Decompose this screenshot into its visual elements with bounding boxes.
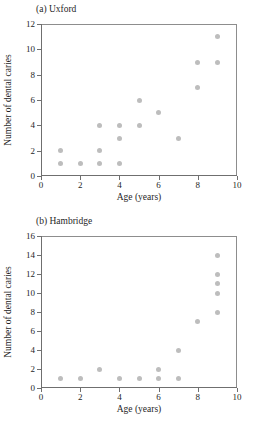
panel-b-y-tick-label: 12 xyxy=(26,270,35,279)
data-point xyxy=(176,348,181,353)
panel-b-y-tick-label: 14 xyxy=(26,251,35,260)
panel-a-y-tick-label: 2 xyxy=(31,146,36,155)
panel-b-y-tick-label: 10 xyxy=(26,289,35,298)
data-point xyxy=(156,110,161,115)
panel-a-x-tick-label: 4 xyxy=(117,181,122,190)
panel-b-y-tick-mark xyxy=(37,331,41,332)
panel-a-y-tick-mark xyxy=(37,151,41,152)
panel-a-y-tick-mark xyxy=(37,100,41,101)
panel-a-y-tick-label: 6 xyxy=(31,96,36,105)
panel-a-x-tick-label: 6 xyxy=(156,181,161,190)
data-point xyxy=(137,98,142,103)
panel-a-y-tick-label: 8 xyxy=(31,70,36,79)
panel-b-x-tick-label: 0 xyxy=(39,393,44,402)
panel-a-y-tick-mark xyxy=(37,49,41,50)
panel-a-axis-right xyxy=(236,24,237,176)
panel-b-y-tick-mark xyxy=(37,255,41,256)
data-point xyxy=(176,376,181,381)
data-point xyxy=(58,148,63,153)
panel-b-title: (b) Hambridge xyxy=(36,216,92,227)
panel-a-y-tick-label: 4 xyxy=(31,121,36,130)
figure-panel-b: (b) Hambridge Number of dental caries 02… xyxy=(0,212,264,425)
data-point xyxy=(58,161,63,166)
data-point xyxy=(215,291,220,296)
data-point xyxy=(137,123,142,128)
panel-b-y-axis-title: Number of dental caries xyxy=(2,236,14,388)
panel-a-x-tick-label: 10 xyxy=(233,181,242,190)
panel-b-axis-left xyxy=(41,236,42,388)
panel-a-y-tick-mark xyxy=(37,75,41,76)
data-point xyxy=(117,161,122,166)
data-point xyxy=(137,376,142,381)
data-point xyxy=(176,136,181,141)
data-point xyxy=(156,376,161,381)
panel-a-axis-bottom xyxy=(41,175,237,176)
panel-b-x-tick-label: 10 xyxy=(233,393,242,402)
panel-a-title: (a) Uxford xyxy=(36,4,76,15)
panel-a-axis-top xyxy=(41,24,237,25)
panel-a-y-tick-label: 0 xyxy=(31,172,36,181)
data-point xyxy=(97,148,102,153)
data-point xyxy=(195,85,200,90)
data-point xyxy=(195,319,200,324)
panel-b-y-axis-title-text: Number of dental caries xyxy=(3,266,13,358)
panel-b-y-tick-label: 8 xyxy=(31,308,36,317)
panel-b-axis-bottom xyxy=(41,387,237,388)
panel-a-x-tick-label: 0 xyxy=(39,181,44,190)
data-point xyxy=(195,60,200,65)
panel-b-x-tick-label: 2 xyxy=(78,393,83,402)
data-point xyxy=(215,253,220,258)
panel-b-x-tick-label: 4 xyxy=(117,393,122,402)
panel-a-axis-left xyxy=(41,24,42,176)
panel-b-y-tick-label: 2 xyxy=(31,365,36,374)
panel-b-x-axis-title: Age (years) xyxy=(41,404,237,415)
data-point xyxy=(78,161,83,166)
panel-b-x-tick-label: 6 xyxy=(156,393,161,402)
data-point xyxy=(97,161,102,166)
panel-a-x-tick-label: 8 xyxy=(196,181,201,190)
panel-a-y-tick-label: 12 xyxy=(26,20,35,29)
panel-a-y-tick-mark xyxy=(37,125,41,126)
panel-b-y-tick-mark xyxy=(37,312,41,313)
panel-a-y-axis-title: Number of dental caries xyxy=(2,24,14,176)
panel-a-x-tick-label: 2 xyxy=(78,181,83,190)
panel-b-plot-area: 02468101214160246810 xyxy=(41,236,237,388)
data-point xyxy=(117,136,122,141)
data-point xyxy=(215,281,220,286)
data-point xyxy=(97,123,102,128)
panel-a-plot-area: 0246810120246810 xyxy=(41,24,237,176)
panel-b-y-tick-label: 4 xyxy=(31,346,36,355)
data-point xyxy=(117,123,122,128)
panel-b-y-tick-mark xyxy=(37,236,41,237)
panel-b-y-tick-mark xyxy=(37,350,41,351)
data-point xyxy=(215,272,220,277)
panel-a-y-tick-label: 10 xyxy=(26,45,35,54)
data-point xyxy=(215,34,220,39)
panel-b-y-tick-label: 6 xyxy=(31,327,36,336)
panel-a-y-tick-mark xyxy=(37,24,41,25)
data-point xyxy=(78,376,83,381)
data-point xyxy=(97,367,102,372)
panel-b-y-tick-label: 0 xyxy=(31,384,36,393)
data-point xyxy=(156,367,161,372)
panel-b-y-tick-mark xyxy=(37,293,41,294)
data-point xyxy=(215,60,220,65)
figure-panel-a: (a) Uxford Number of dental caries 02468… xyxy=(0,0,264,212)
data-point xyxy=(215,310,220,315)
data-point xyxy=(58,376,63,381)
panel-b-x-tick-label: 8 xyxy=(196,393,201,402)
panel-b-axis-top xyxy=(41,236,237,237)
panel-b-axis-right xyxy=(236,236,237,388)
panel-a-x-axis-title: Age (years) xyxy=(41,192,237,203)
data-point xyxy=(117,376,122,381)
panel-b-y-tick-mark xyxy=(37,369,41,370)
panel-a-y-axis-title-text: Number of dental caries xyxy=(3,54,13,146)
panel-b-y-tick-label: 16 xyxy=(26,232,35,241)
panel-b-y-tick-mark xyxy=(37,274,41,275)
